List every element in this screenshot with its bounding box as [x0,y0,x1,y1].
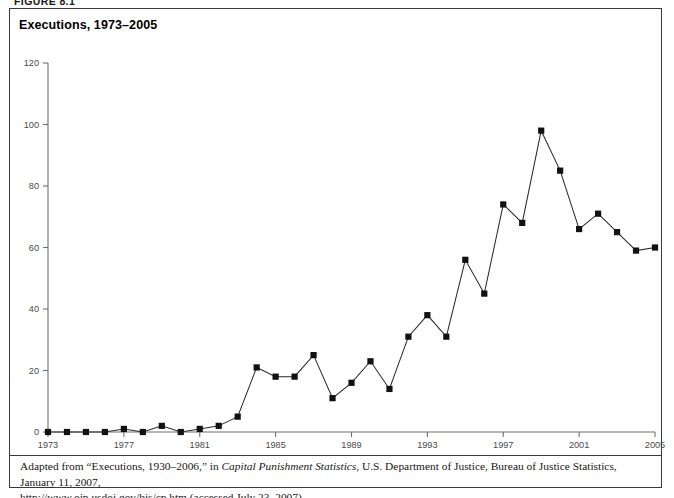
data-point-marker [443,334,449,340]
data-point-marker [178,429,184,435]
data-point-marker [595,211,601,217]
caption-divider [10,455,661,456]
data-point-marker [576,226,582,232]
data-point-marker [102,429,108,435]
y-tick-label: 40 [29,304,39,314]
data-point-marker [45,429,51,435]
data-point-marker [159,423,165,429]
data-point-marker [291,374,297,380]
x-tick-label: 1973 [38,440,58,450]
x-tick-label: 1997 [493,440,513,450]
data-point-marker [500,201,506,207]
data-point-marker [462,257,468,263]
figure-source-caption: Adapted from “Executions, 1930–2006,” in… [20,459,644,498]
x-tick-label: 1993 [417,440,437,450]
data-point-marker [216,423,222,429]
data-point-marker [254,364,260,370]
x-tick-label: 2001 [569,440,589,450]
data-point-marker [481,291,487,297]
chart-plot-area: 0204060801001201973197719811985198919931… [0,0,674,498]
y-tick-label: 80 [29,181,39,191]
x-tick-label: 1977 [114,440,134,450]
data-point-marker [83,429,89,435]
y-tick-label: 20 [29,366,39,376]
executions-line-chart: 0204060801001201973197719811985198919931… [0,0,674,498]
data-point-marker [121,426,127,432]
data-point-marker [405,334,411,340]
data-point-marker [633,247,639,253]
data-point-marker [348,380,354,386]
x-tick-label: 2005 [645,440,665,450]
data-point-marker [424,312,430,318]
data-point-marker [652,244,658,250]
x-tick-label: 1989 [341,440,361,450]
x-tick-label: 1985 [265,440,285,450]
data-point-marker [367,358,373,364]
data-point-marker [310,352,316,358]
y-tick-label: 100 [24,120,39,130]
y-tick-label: 60 [29,243,39,253]
data-point-marker [614,229,620,235]
caption-source-title: Capital Punishment Statistics [222,460,357,472]
data-point-marker [329,395,335,401]
data-point-marker [64,429,70,435]
caption-line2-url: http://www.ojp.usdoj.gov/bjs/cp.htm (acc… [20,491,302,498]
data-point-marker [235,414,241,420]
data-point-marker [140,429,146,435]
data-point-marker [273,374,279,380]
y-tick-label: 120 [24,58,39,68]
caption-line1-prefix: Adapted from “Executions, 1930–2006,” in [20,460,222,472]
x-tick-label: 1981 [190,440,210,450]
executions-series-line [48,131,655,432]
data-point-marker [557,168,563,174]
figure-page: FIGURE 8.1 Executions, 1973–2005 0204060… [0,0,674,498]
data-point-marker [538,128,544,134]
data-point-marker [386,386,392,392]
data-point-marker [519,220,525,226]
y-tick-label: 0 [34,427,39,437]
data-point-marker [197,426,203,432]
